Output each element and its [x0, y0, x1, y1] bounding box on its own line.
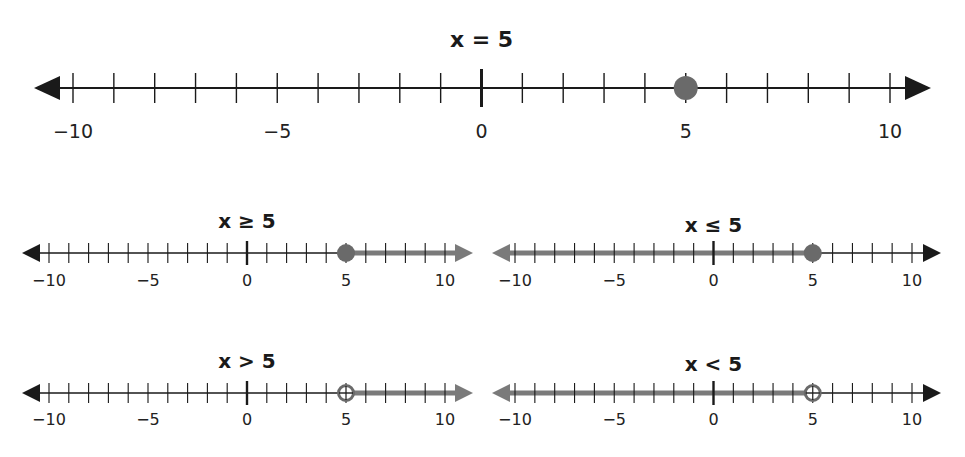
arrow-left-icon: [22, 244, 40, 262]
closed-point-icon: [337, 244, 355, 262]
tick-label: −5: [602, 410, 626, 429]
number-line: x ≥ 5−10−50510: [22, 209, 473, 290]
arrow-left-icon: [34, 76, 60, 100]
arrow-right-icon: [905, 76, 931, 100]
inequality-title: x < 5: [685, 352, 743, 376]
tick-label: 0: [242, 271, 252, 290]
inequality-title: x > 5: [218, 349, 276, 373]
tick-label: −10: [53, 120, 93, 142]
inequality-title: x ≥ 5: [218, 209, 276, 233]
tick-label: −5: [136, 271, 160, 290]
number-line: x < 5−10−50510: [492, 352, 941, 429]
tick-label: 5: [341, 271, 351, 290]
tick-label: 5: [808, 271, 818, 290]
tick-label: 10: [878, 120, 902, 142]
tick-label: 5: [680, 120, 692, 142]
tick-label: 10: [902, 271, 922, 290]
closed-point-icon: [674, 76, 698, 100]
arrow-right-icon: [923, 244, 941, 262]
number-lines-diagram: x = 5−10−50510x ≥ 5−10−50510x ≤ 5−10−505…: [0, 0, 965, 457]
closed-point-icon: [804, 244, 822, 262]
tick-label: −10: [32, 410, 66, 429]
tick-label: 10: [435, 410, 455, 429]
tick-label: −5: [602, 271, 626, 290]
tick-label: 0: [708, 271, 718, 290]
tick-label: −5: [136, 410, 160, 429]
inequality-title: x = 5: [450, 27, 513, 52]
number-line: x > 5−10−50510: [22, 349, 473, 429]
arrow-right-icon: [455, 244, 473, 262]
arrow-right-icon: [455, 384, 473, 402]
tick-label: −5: [263, 120, 291, 142]
arrow-right-icon: [923, 384, 941, 402]
number-line: x ≤ 5−10−50510: [492, 213, 941, 290]
arrow-left-icon: [492, 244, 510, 262]
inequality-title: x ≤ 5: [685, 213, 743, 237]
arrow-left-icon: [492, 384, 510, 402]
tick-label: 0: [242, 410, 252, 429]
number-line: x = 5−10−50510: [34, 27, 931, 142]
tick-label: 0: [708, 410, 718, 429]
tick-label: −10: [498, 410, 532, 429]
tick-label: 5: [808, 410, 818, 429]
arrow-left-icon: [22, 384, 40, 402]
tick-label: −10: [32, 271, 66, 290]
tick-label: 10: [902, 410, 922, 429]
tick-label: 0: [475, 120, 487, 142]
tick-label: −10: [498, 271, 532, 290]
tick-label: 10: [435, 271, 455, 290]
tick-label: 5: [341, 410, 351, 429]
